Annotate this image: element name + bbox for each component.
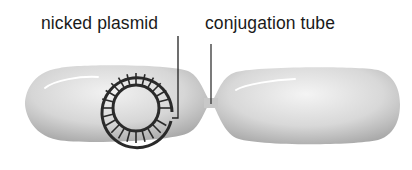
conjugation-tube-label: conjugation tube (205, 13, 335, 34)
recipient-cell (212, 67, 400, 144)
conjugation-diagram: nicked plasmid conjugation tube (0, 0, 412, 170)
donor-cell (25, 65, 210, 142)
nicked-plasmid-label: nicked plasmid (41, 13, 158, 34)
